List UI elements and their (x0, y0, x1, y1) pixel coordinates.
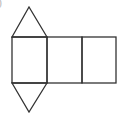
bottom-triangle (12, 83, 47, 112)
top-triangle (12, 7, 47, 37)
square-2 (47, 37, 82, 83)
square-1 (12, 37, 47, 83)
prism-net-diagram (0, 0, 120, 113)
square-3 (82, 37, 116, 83)
